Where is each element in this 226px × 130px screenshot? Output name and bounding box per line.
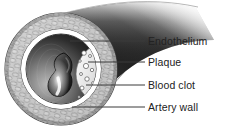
artery-illustration bbox=[0, 0, 226, 130]
artery-cross-section-figure: EndotheliumPlaqueBlood clotArtery wall bbox=[0, 0, 226, 130]
